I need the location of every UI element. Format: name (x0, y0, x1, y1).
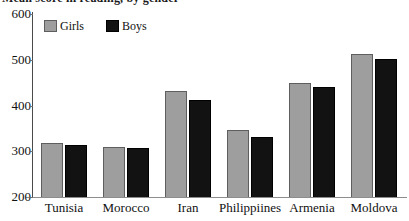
bar-tunisia-girls (41, 143, 63, 197)
bar-morocco-girls (103, 147, 125, 197)
plot-area (33, 14, 405, 197)
x-axis-label-moldova: Moldova (343, 200, 405, 216)
bar-iran-boys (189, 100, 211, 197)
y-axis-tick-label: 500 (3, 53, 31, 66)
x-axis-line (26, 197, 407, 198)
y-axis-tick-mark (29, 197, 33, 198)
girls-swatch (44, 20, 57, 32)
legend-label: Girls (60, 20, 84, 32)
bar-armenia-boys (313, 87, 335, 197)
bar-armenia-girls (289, 83, 311, 197)
bar-philippiines-boys (251, 137, 273, 197)
x-axis-label-iran: Iran (157, 200, 219, 216)
bar-morocco-boys (127, 148, 149, 197)
bar-philippiines-girls (227, 130, 249, 197)
legend-label: Boys (122, 20, 147, 32)
bar-iran-girls (165, 91, 187, 197)
legend-item-boys: Boys (106, 20, 147, 32)
x-axis-label-tunisia: Tunisia (33, 200, 95, 216)
chart-legend: GirlsBoys (44, 20, 147, 32)
x-axis-label-philippiines: Philippiines (219, 200, 281, 216)
y-axis-tick-label: 300 (3, 144, 31, 157)
bar-moldova-boys (375, 59, 397, 197)
bar-tunisia-boys (65, 145, 87, 197)
bar-chart: 200300400500600 GirlsBoys TunisiaMorocco… (0, 0, 409, 221)
legend-item-girls: Girls (44, 20, 84, 32)
y-axis-tick-label: 600 (3, 7, 31, 20)
y-axis-tick-label: 200 (3, 190, 31, 203)
boys-swatch (106, 20, 119, 32)
y-axis-tick-label: 400 (3, 99, 31, 112)
bar-moldova-girls (351, 54, 373, 197)
x-axis-label-armenia: Armenia (281, 200, 343, 216)
x-axis-label-morocco: Morocco (95, 200, 157, 216)
y-axis-ticks: 200300400500600 (0, 0, 31, 221)
